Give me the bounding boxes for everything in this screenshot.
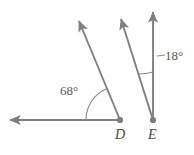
- angle-figure-svg: [0, 0, 194, 155]
- angle-arc-d: [86, 89, 106, 120]
- vertex-dot-d: [117, 117, 123, 123]
- point-label-d: D: [115, 128, 125, 142]
- geometry-diagram-canvas: 68° 18° D E: [0, 0, 194, 155]
- ray-d-upleft-slanted: [79, 21, 120, 120]
- ray-e-upleft-slanted: [121, 19, 153, 120]
- angle-label-18: 18°: [165, 49, 183, 62]
- vertex-dot-e: [150, 117, 156, 123]
- point-label-e: E: [148, 128, 157, 142]
- angle-arc-e: [138, 72, 153, 74]
- angle-label-leader-line: [157, 55, 165, 56]
- angle-label-68: 68°: [60, 84, 78, 97]
